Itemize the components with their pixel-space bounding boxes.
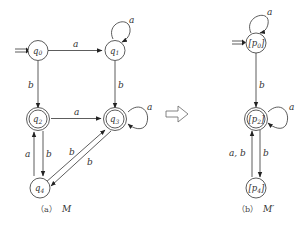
- state-label-p0: [p0]: [249, 38, 266, 49]
- edge-label-p4-p2: a, b: [229, 148, 246, 158]
- dfa-m-prime-state-labels: [p0] [p2] [p4]: [249, 38, 266, 194]
- edge-label-p0-p2: b: [259, 80, 265, 90]
- edge-label-q4-q2: a: [25, 149, 30, 159]
- caption-m-prefix: （a）: [36, 205, 57, 214]
- edge-q1-loop: [112, 22, 131, 42]
- edge-q4-q3: [45, 130, 105, 183]
- caption-m: （a） M: [36, 204, 72, 214]
- edge-label-p2-p4: b: [263, 148, 269, 158]
- edge-label-q2-q4: b: [46, 149, 52, 159]
- caption-m-prime: （b） M′: [237, 204, 274, 214]
- state-label-p4: [p4]: [249, 183, 266, 194]
- edge-label-q0-q1: a: [73, 39, 78, 49]
- hollow-right-arrow-icon: [166, 106, 188, 122]
- caption-m-prime-name: M′: [262, 204, 274, 214]
- edge-q3-q4: [51, 131, 111, 186]
- edge-q3-loop: [128, 107, 148, 129]
- edge-label-q1-loop: a: [129, 15, 134, 25]
- state-label-p2: [p2]: [249, 114, 266, 125]
- edge-label-p2-loop: a: [289, 102, 294, 112]
- edge-p0-loop: [250, 15, 269, 33]
- edge-label-q4-q3: b: [69, 147, 75, 157]
- automaton-diagram: q0 q1 q2 q3 q4 a a b b a a b a b b （a） M: [0, 0, 305, 228]
- dfa-m-prime-edge-labels: a b a b a, b: [229, 7, 294, 158]
- edge-label-q2-q3: a: [74, 107, 79, 117]
- edge-label-q0-q2: b: [28, 80, 34, 90]
- edge-label-p0-loop: a: [267, 7, 272, 17]
- edge-p2-loop: [268, 107, 288, 128]
- edge-label-q3-loop: a: [147, 102, 152, 112]
- caption-m-prime-prefix: （b）: [237, 205, 258, 214]
- initial-arrow-p0: [232, 40, 246, 46]
- edge-label-q1-q3: b: [118, 80, 124, 90]
- caption-m-name: M: [61, 204, 72, 214]
- edge-label-q3-q4: b: [87, 157, 93, 167]
